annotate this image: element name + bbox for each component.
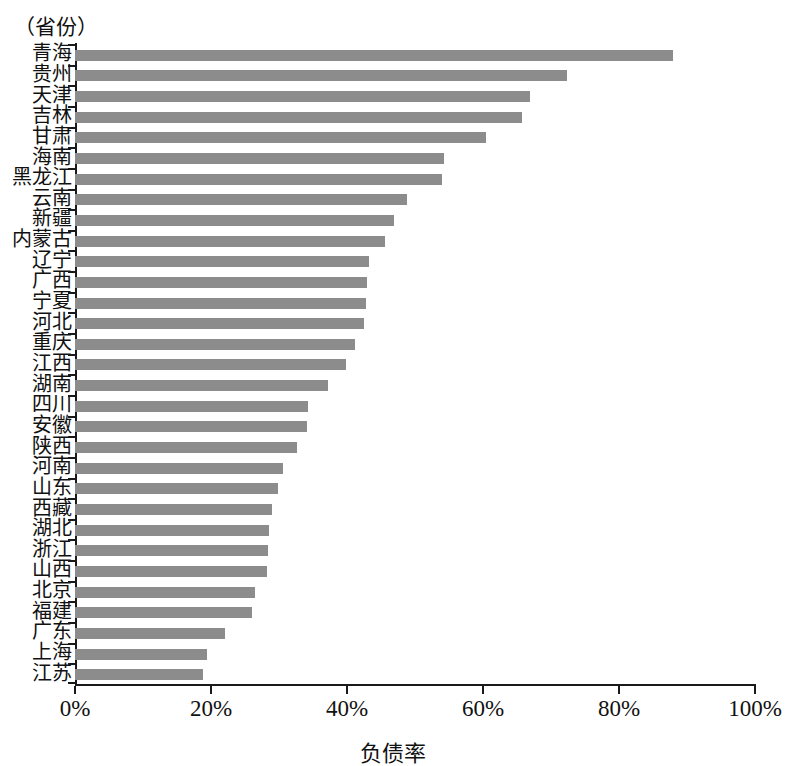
category-label: 天津 bbox=[32, 85, 72, 105]
y-axis-tick bbox=[68, 292, 75, 294]
category-label: 河南 bbox=[32, 456, 72, 476]
bar bbox=[75, 339, 355, 350]
bar bbox=[75, 421, 307, 432]
bar-row bbox=[75, 312, 755, 333]
y-axis-tick bbox=[68, 498, 75, 500]
y-axis-tick bbox=[68, 65, 75, 67]
y-axis-tick bbox=[68, 416, 75, 418]
y-axis-tick bbox=[68, 643, 75, 645]
bar-row bbox=[75, 581, 755, 602]
category-label: 安徽 bbox=[32, 415, 72, 435]
bar bbox=[75, 215, 394, 226]
bar bbox=[75, 174, 442, 185]
x-axis-tick-label: 100% bbox=[728, 696, 782, 722]
y-axis-tick bbox=[68, 85, 75, 87]
category-label: 新疆 bbox=[32, 208, 72, 228]
bar-row bbox=[75, 416, 755, 437]
category-label: 山西 bbox=[32, 559, 72, 579]
bar-row bbox=[75, 622, 755, 643]
x-axis-tick-label: 20% bbox=[190, 696, 232, 722]
bar bbox=[75, 359, 346, 370]
category-label: 西藏 bbox=[32, 498, 72, 518]
category-label: 宁夏 bbox=[32, 291, 72, 311]
bar-row bbox=[75, 127, 755, 148]
bar bbox=[75, 318, 364, 329]
bar-row bbox=[75, 374, 755, 395]
x-axis-tick-label: 40% bbox=[326, 696, 368, 722]
bar-row bbox=[75, 147, 755, 168]
category-label: 福建 bbox=[32, 601, 72, 621]
y-axis-tick bbox=[68, 271, 75, 273]
bar-row bbox=[75, 189, 755, 210]
category-label: 重庆 bbox=[32, 332, 72, 352]
bar bbox=[75, 649, 207, 660]
bar bbox=[75, 669, 203, 680]
bar bbox=[75, 277, 367, 288]
category-label: 黑龙江 bbox=[12, 167, 72, 187]
category-label: 吉林 bbox=[32, 105, 72, 125]
y-axis-tick bbox=[68, 601, 75, 603]
bar-row bbox=[75, 209, 755, 230]
bar bbox=[75, 525, 269, 536]
category-label: 河北 bbox=[32, 312, 72, 332]
y-axis-tick bbox=[68, 436, 75, 438]
bar bbox=[75, 91, 530, 102]
category-label: 江苏 bbox=[32, 663, 72, 683]
category-label: 陕西 bbox=[32, 436, 72, 456]
bar bbox=[75, 463, 283, 474]
debt-ratio-bar-chart: （省份） 青海贵州天津吉林甘肃海南黑龙江云南新疆内蒙古辽宁广西宁夏河北重庆江西湖… bbox=[0, 0, 785, 766]
x-axis-tick-label: 80% bbox=[598, 696, 640, 722]
bar bbox=[75, 628, 225, 639]
category-label: 甘肃 bbox=[32, 126, 72, 146]
y-axis-tick bbox=[68, 44, 75, 46]
x-axis-tick bbox=[74, 686, 76, 694]
y-axis-tick bbox=[68, 682, 75, 684]
bar-row bbox=[75, 436, 755, 457]
x-axis-tick-label: 60% bbox=[462, 696, 504, 722]
category-labels-layer: 青海贵州天津吉林甘肃海南黑龙江云南新疆内蒙古辽宁广西宁夏河北重庆江西湖南四川安徽… bbox=[0, 0, 72, 766]
y-axis-tick bbox=[68, 539, 75, 541]
category-label: 云南 bbox=[32, 188, 72, 208]
bar-row bbox=[75, 663, 755, 684]
bar-row bbox=[75, 44, 755, 65]
category-label: 四川 bbox=[32, 394, 72, 414]
bar bbox=[75, 194, 407, 205]
x-axis-tick bbox=[754, 686, 756, 694]
category-label: 北京 bbox=[32, 580, 72, 600]
category-label: 青海 bbox=[32, 43, 72, 63]
x-axis-tick bbox=[482, 686, 484, 694]
y-axis-tick bbox=[68, 622, 75, 624]
bar bbox=[75, 236, 385, 247]
x-axis-tick bbox=[618, 686, 620, 694]
bar bbox=[75, 380, 328, 391]
bar bbox=[75, 70, 567, 81]
y-axis-tick bbox=[68, 560, 75, 562]
bar-row bbox=[75, 601, 755, 622]
category-label: 湖南 bbox=[32, 374, 72, 394]
bar bbox=[75, 401, 308, 412]
bar-row bbox=[75, 292, 755, 313]
y-axis-tick bbox=[68, 106, 75, 108]
x-axis-line bbox=[75, 684, 756, 686]
category-label: 上海 bbox=[32, 642, 72, 662]
bar-row bbox=[75, 395, 755, 416]
category-label: 海南 bbox=[32, 147, 72, 167]
category-label: 辽宁 bbox=[32, 250, 72, 270]
x-axis-tick-label: 0% bbox=[60, 696, 91, 722]
bar-row bbox=[75, 333, 755, 354]
category-label: 广西 bbox=[32, 270, 72, 290]
category-label: 内蒙古 bbox=[12, 229, 72, 249]
y-axis-tick bbox=[68, 395, 75, 397]
bar-row bbox=[75, 539, 755, 560]
bar-row bbox=[75, 250, 755, 271]
bar-row bbox=[75, 560, 755, 581]
bar bbox=[75, 483, 278, 494]
bar-row bbox=[75, 85, 755, 106]
category-label: 湖北 bbox=[32, 518, 72, 538]
bar bbox=[75, 132, 486, 143]
bar bbox=[75, 112, 522, 123]
bar-row bbox=[75, 478, 755, 499]
bar-row bbox=[75, 498, 755, 519]
y-axis-tick bbox=[68, 374, 75, 376]
y-axis-tick bbox=[68, 230, 75, 232]
